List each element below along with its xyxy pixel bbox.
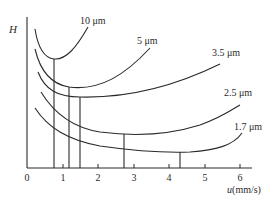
x-tick-label: 3	[132, 172, 137, 183]
x-tick-label: 6	[238, 172, 243, 183]
curve-3.5um	[38, 64, 220, 97]
curve-label-3.5um: 3.5 μm	[212, 47, 240, 58]
x-tick-label: 0	[25, 172, 30, 183]
curve-label-2.5um: 2.5 μm	[224, 87, 252, 98]
chart: 0 1 2 3 4 5 6 H u(mm/s) 10 μm 5 μm 3.5 μ…	[0, 0, 269, 202]
curve-5um	[35, 48, 150, 88]
y-axis-label: H	[8, 23, 18, 35]
curve-1.7um	[35, 108, 242, 152]
x-ticks	[63, 164, 240, 168]
x-tick-label: 1	[61, 172, 66, 183]
curve-label-5um: 5 μm	[137, 35, 158, 46]
curve-label-1.7um: 1.7 μm	[234, 121, 262, 132]
curve-2.5um	[41, 92, 240, 134]
x-tick-label: 4	[167, 172, 172, 183]
x-tick-label: 2	[96, 172, 101, 183]
x-tick-label: 5	[203, 172, 208, 183]
x-axis-label: u(mm/s)	[227, 184, 261, 196]
curve-label-10um: 10 μm	[80, 15, 106, 26]
curve-10um	[35, 27, 88, 59]
